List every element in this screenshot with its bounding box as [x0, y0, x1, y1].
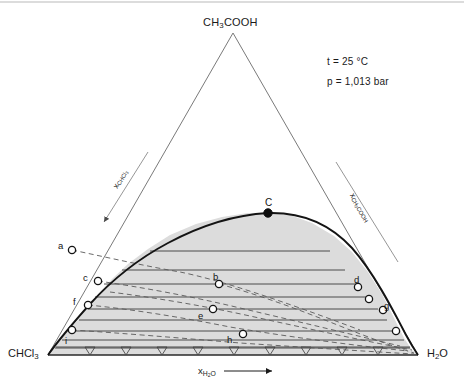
ternary-diagram-canvas — [0, 0, 464, 392]
point-label-b: b — [213, 272, 218, 282]
corner-label-water: H2O — [427, 348, 448, 361]
plait-point-label: C — [265, 198, 272, 208]
point-marker-a — [68, 246, 75, 253]
point-marker-unlabeled-1 — [365, 295, 372, 302]
apex-label-acetic-acid: CH3COOH — [203, 17, 258, 30]
point-marker-h — [239, 330, 246, 337]
condition-temperature: t = 25 °C — [327, 57, 368, 67]
axis-label-bottom: xH2O — [198, 366, 216, 379]
point-label-a: a — [58, 241, 63, 251]
ternary-diagram-page: CH3COOH CHCl3 H2O t = 25 °C p = 1,013 ba… — [0, 0, 464, 392]
point-label-e: e — [198, 311, 203, 321]
point-marker-i — [68, 326, 75, 333]
point-marker-unlabeled-2 — [392, 327, 399, 334]
point-label-h: h — [227, 335, 232, 345]
condition-pressure: p = 1,013 bar — [327, 77, 389, 87]
corner-label-chloroform: CHCl3 — [8, 348, 39, 361]
point-label-g: g — [384, 301, 389, 311]
point-marker-e — [209, 305, 216, 312]
point-marker-c — [94, 277, 101, 284]
left-axis-arrow — [104, 152, 148, 222]
point-label-i: i — [65, 336, 67, 346]
point-label-f: f — [73, 297, 76, 307]
point-label-c: c — [83, 273, 88, 283]
point-marker-f — [84, 301, 91, 308]
plait-point-marker — [264, 209, 272, 217]
point-label-d: d — [354, 275, 359, 285]
